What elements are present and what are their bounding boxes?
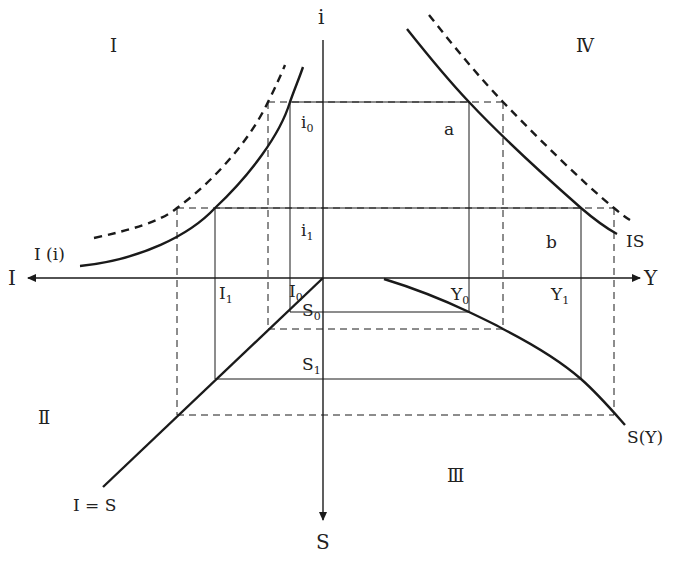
dashed-construction-lines [177, 102, 614, 415]
Y0-label: Y0 [450, 284, 469, 307]
is-curve-label: IS [626, 231, 644, 251]
equilibrium-line [103, 278, 323, 487]
i-axis-label: i [318, 5, 324, 29]
investment-curve-shifted [94, 65, 285, 238]
is-curve-diagram: i I Y S Ⅰ Ⅱ Ⅲ Ⅳ I (i) I = S S(Y) IS a b … [0, 0, 677, 569]
point-b-label: b [546, 232, 557, 252]
investment-axis-label: I [8, 266, 16, 290]
quadrant-2-label: Ⅱ [38, 407, 50, 428]
equilibrium-line-label: I = S [73, 495, 116, 515]
s-axis-label: S [316, 530, 330, 554]
I0-label: I0 [289, 281, 303, 304]
y-axis-label: Y [643, 266, 658, 290]
investment-curve [80, 67, 303, 266]
is-curve-shifted [429, 15, 630, 220]
S1-label: S1 [302, 354, 321, 377]
S0-label: S0 [302, 300, 321, 323]
i1-label: i1 [301, 220, 313, 243]
point-a-label: a [444, 119, 454, 139]
saving-curve-label: S(Y) [627, 427, 663, 447]
investment-curve-label: I (i) [34, 244, 65, 264]
i0-label: i0 [301, 112, 313, 135]
is-curve [407, 29, 617, 234]
I1-label: I1 [219, 283, 233, 306]
quadrant-3-label: Ⅲ [447, 465, 464, 486]
quadrant-1-label: Ⅰ [110, 35, 117, 56]
Y1-label: Y1 [550, 284, 569, 307]
quadrant-4-label: Ⅳ [576, 35, 595, 56]
saving-curve [384, 279, 625, 425]
axes [28, 40, 640, 520]
